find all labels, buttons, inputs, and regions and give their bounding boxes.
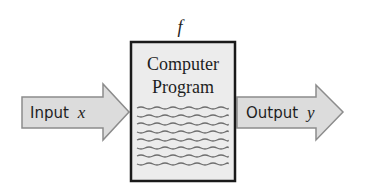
box-title-line2: Program [152, 77, 214, 97]
input-label: Input [30, 104, 69, 122]
output-label: Output [246, 104, 298, 122]
input-variable: x [77, 103, 86, 122]
function-machine-diagram: Input x Output y f Computer Program [0, 0, 367, 193]
output-variable: y [305, 103, 315, 122]
input-arrow: Input x [22, 84, 129, 140]
box-title-line1: Computer [147, 54, 219, 74]
svg-text:Input x: Input x [30, 103, 86, 122]
function-label: f [177, 17, 185, 37]
output-arrow: Output y [237, 85, 343, 140]
computer-program-box: Computer Program [131, 42, 235, 181]
